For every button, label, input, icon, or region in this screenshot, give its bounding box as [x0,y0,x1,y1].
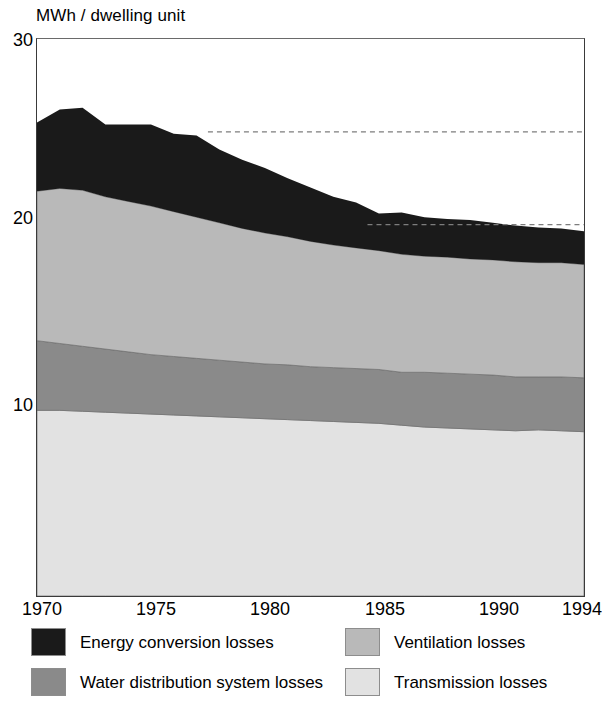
legend-swatch-transmission-losses [345,668,380,696]
legend-swatch-energy-conversion-losses [31,628,66,656]
y-tick-20: 20 [3,209,33,227]
x-tick-1994: 1994 [562,600,602,618]
area-series-group [37,108,584,596]
x-tick-1990: 1990 [479,600,519,618]
legend-item-ventilation-losses: Ventilation losses [345,628,525,656]
y-axis-unit-caption: MWh / dwelling unit [36,6,185,26]
legend-item-energy-conversion-losses: Energy conversion losses [31,628,274,656]
plot-svg [37,39,584,596]
x-tick-1980: 1980 [250,600,290,618]
x-tick-1975: 1975 [136,600,176,618]
stacked-area-chart: MWh / dwelling unit 30 20 10 1970 1975 1… [0,0,602,719]
legend-label-water-distribution-system-losses: Water distribution system losses [80,674,323,691]
x-tick-1970: 1970 [22,600,62,618]
x-tick-1985: 1985 [365,600,405,618]
legend-swatch-ventilation-losses [345,628,380,656]
legend-label-energy-conversion-losses: Energy conversion losses [80,634,274,651]
legend-swatch-water-distribution-system-losses [31,668,66,696]
legend-item-transmission-losses: Transmission losses [345,668,547,696]
plot-area [36,38,585,597]
chart-legend: Energy conversion losses Water distribut… [0,628,602,710]
legend-label-ventilation-losses: Ventilation losses [394,634,525,651]
y-tick-30: 30 [3,31,33,49]
legend-label-transmission-losses: Transmission losses [394,674,547,691]
y-tick-10: 10 [3,396,33,414]
legend-item-water-distribution-system-losses: Water distribution system losses [31,668,323,696]
area-transmission-losses [37,410,584,596]
